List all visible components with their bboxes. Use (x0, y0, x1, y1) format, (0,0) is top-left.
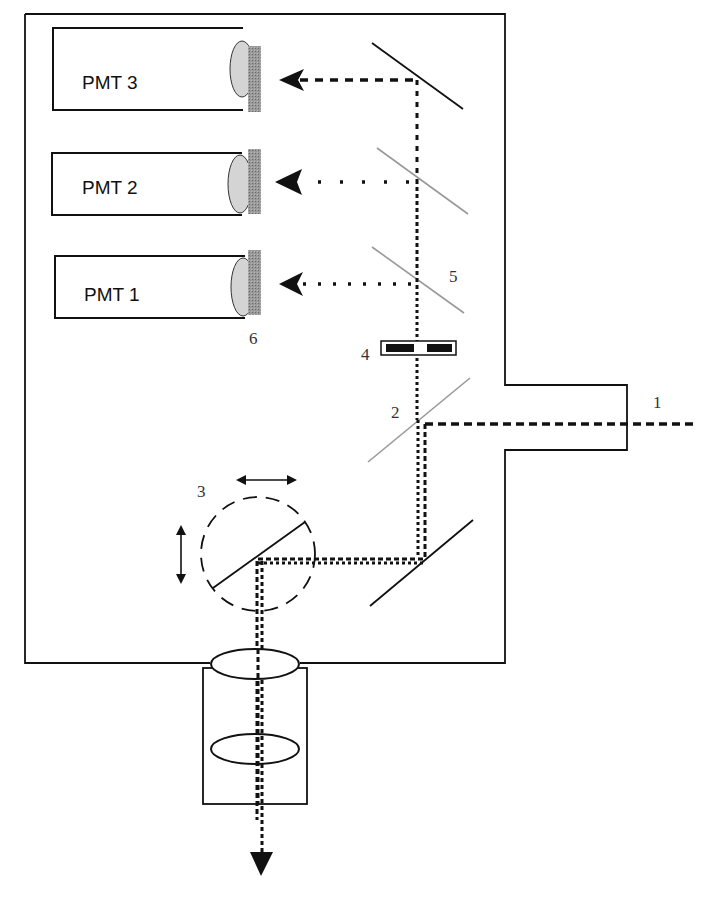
pmt-2-label: PMT 2 (82, 177, 138, 198)
pinhole-4 (381, 341, 456, 355)
pmt-3-label: PMT 3 (82, 72, 138, 93)
label-4: 4 (361, 345, 370, 364)
pmt-3: PMT 3 (53, 28, 254, 110)
label-3: 3 (197, 482, 206, 501)
horizontal-scan-arrow-icon (236, 475, 297, 485)
label-6: 6 (249, 329, 258, 348)
label-2: 2 (391, 403, 400, 422)
objective-lens (203, 649, 307, 805)
emission-filter-3 (248, 46, 261, 112)
pmt-1-label: PMT 1 (84, 284, 140, 305)
label-5: 5 (449, 267, 458, 286)
emission-filter-2 (248, 149, 261, 214)
pmt-1: PMT 1 (55, 256, 255, 318)
output-arrowhead (250, 852, 273, 876)
label-1: 1 (653, 393, 662, 412)
emission-filter-1 (248, 250, 261, 315)
enclosure-outline (25, 14, 627, 663)
arrowhead-pmt1 (279, 272, 303, 296)
dichroic-pmt2 (377, 148, 468, 214)
vertical-scan-arrow-icon (176, 525, 186, 584)
arrowhead-pmt2 (275, 169, 302, 195)
mirror-top (372, 43, 463, 109)
diagram-canvas: PMT 3 PMT 2 PMT 1 (0, 0, 715, 900)
pmt-2: PMT 2 (52, 153, 252, 215)
